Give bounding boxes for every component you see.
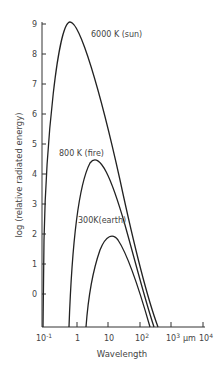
x-ticks <box>77 322 203 327</box>
y-tick-labels: 9 8 7 6 5 4 3 2 1 0 <box>32 20 37 299</box>
y-tick-8: 8 <box>32 50 37 59</box>
x-unit: µm <box>183 334 196 343</box>
y-tick-0: 0 <box>32 290 37 299</box>
y-tick-2: 2 <box>32 230 37 239</box>
y-tick-6: 6 <box>32 110 37 119</box>
x-tick-100: 102 <box>135 332 149 343</box>
label-800k-fire: 800 K (fire) <box>59 149 104 158</box>
y-tick-3: 3 <box>32 200 37 209</box>
label-300k-earth: 300K(earth) <box>78 216 126 225</box>
label-6000k-sun: 6000 K (sun) <box>91 30 142 39</box>
y-axis-title: log (relative radiated energy) <box>14 112 24 237</box>
y-tick-5: 5 <box>32 140 37 149</box>
blackbody-radiation-chart: 9 8 7 6 5 4 3 2 1 0 10-1 1 10 102 103 µm… <box>0 0 215 374</box>
x-tick-10000: 104 <box>199 332 213 343</box>
x-tick-labels: 10-1 1 10 102 103 µm 104 <box>36 332 213 343</box>
y-tick-9: 9 <box>32 20 37 29</box>
series-800k-fire <box>69 160 154 327</box>
x-tick-1: 1 <box>75 334 80 343</box>
x-tick-10: 10 <box>104 334 114 343</box>
x-tick-1000: 103 <box>166 332 180 343</box>
y-tick-7: 7 <box>32 80 37 89</box>
y-tick-4: 4 <box>32 170 37 179</box>
x-tick-0.1: 10-1 <box>36 332 52 343</box>
x-axis-title: Wavelength <box>97 349 147 359</box>
y-tick-1: 1 <box>32 260 37 269</box>
